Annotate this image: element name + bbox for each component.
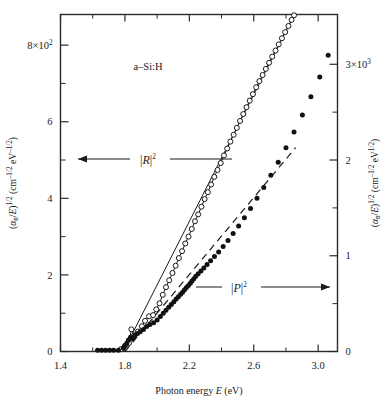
data-point <box>231 231 236 236</box>
x-tick-label-2: 2.2 <box>183 360 196 371</box>
data-point <box>257 79 262 84</box>
x-axis-tick-labels: 1.41.82.22.63.0 <box>54 360 325 371</box>
data-point <box>261 185 266 190</box>
data-point <box>218 161 223 166</box>
data-point <box>216 249 221 254</box>
arrow-left-icon <box>78 156 87 163</box>
data-point <box>279 36 284 41</box>
plot-frame <box>61 15 338 352</box>
data-point <box>111 348 116 353</box>
data-point <box>209 182 214 187</box>
data-point <box>248 206 253 211</box>
data-point <box>196 212 201 217</box>
data-point <box>263 66 268 71</box>
data-point <box>167 278 172 283</box>
data-point <box>212 174 217 179</box>
arrow-right-icon <box>321 284 330 291</box>
data-point <box>276 42 281 47</box>
data-point <box>254 85 259 90</box>
data-point <box>267 60 272 65</box>
data-point <box>242 215 247 220</box>
x-tick-label-1: 1.8 <box>118 360 131 371</box>
svg-text:(αn/E)1/2 (cm–1/2 eV–1/2): (αn/E)1/2 (cm–1/2 eV–1/2) <box>6 137 20 229</box>
data-point <box>225 238 230 243</box>
data-point <box>326 53 331 58</box>
y-right-tick-label-1: 1 <box>346 250 351 261</box>
data-point <box>180 249 185 254</box>
data-point <box>163 285 168 290</box>
y-left-tick-label-2: 4 <box>47 193 53 204</box>
data-point <box>170 270 175 275</box>
annotation-p-label: |P|2 <box>231 281 247 295</box>
data-point <box>215 167 220 172</box>
data-point <box>186 234 191 239</box>
sample-label: a–Si:H <box>133 61 163 72</box>
data-point <box>268 173 273 178</box>
data-point <box>247 98 252 103</box>
x-axis-minor-ticks <box>93 15 286 352</box>
annotation-r-squared: |R|2 <box>78 153 232 167</box>
y-axis-right-tick-labels: 0123×103 <box>346 58 372 357</box>
annotation-r-label: |R|2 <box>140 153 156 167</box>
data-point <box>192 219 197 224</box>
data-point <box>260 73 265 78</box>
data-point <box>276 160 281 165</box>
data-point <box>221 244 226 249</box>
data-point <box>250 92 255 97</box>
data-point <box>234 125 239 130</box>
data-point <box>270 54 275 59</box>
data-point <box>173 263 178 268</box>
y-left-tick-label-0: 0 <box>47 346 52 357</box>
data-point <box>221 153 226 158</box>
x-tick-label-3: 2.6 <box>247 360 260 371</box>
y-left-tick-label-1: 2 <box>47 270 52 281</box>
y-axis-left-major-ticks <box>61 45 69 351</box>
data-point <box>129 327 134 332</box>
y-right-tick-label-2: 2 <box>346 155 351 166</box>
data-point <box>231 132 236 137</box>
y-right-tick-label-0: 0 <box>346 346 351 357</box>
y-left-tick-label-4: 8×102 <box>27 39 53 51</box>
x-axis-title: Photon energy E (eV) <box>155 385 242 397</box>
y-axis-right-minor-ticks <box>333 112 338 303</box>
data-point <box>212 254 217 259</box>
x-axis-major-ticks <box>61 15 319 352</box>
data-point <box>202 197 207 202</box>
data-point <box>292 13 297 18</box>
data-point <box>286 23 291 28</box>
data-point <box>308 94 313 99</box>
figure-container: 1.41.82.22.63.0 02468×102 0123×103 a–Si:… <box>0 0 384 407</box>
data-point <box>292 130 297 135</box>
data-point <box>116 348 121 353</box>
chart-svg: 1.41.82.22.63.0 02468×102 0123×103 a–Si:… <box>0 0 384 407</box>
data-point <box>176 256 181 261</box>
data-point <box>283 30 288 35</box>
y-axis-left-title: (αn/E)1/2 (cm–1/2 eV–1/2) <box>6 137 20 229</box>
data-point <box>238 118 243 123</box>
data-point <box>300 113 305 118</box>
data-point <box>143 318 148 323</box>
data-point <box>317 74 322 79</box>
svg-text:(αn/E)1/2 (cm–1/2 eV1/2): (αn/E)1/2 (cm–1/2 eV1/2) <box>368 139 382 227</box>
data-point <box>228 139 233 144</box>
data-point <box>254 196 259 201</box>
data-point <box>244 105 249 110</box>
data-point <box>273 48 278 53</box>
data-point <box>183 241 188 246</box>
x-tick-label-0: 1.4 <box>54 360 68 371</box>
data-point <box>157 301 162 306</box>
data-point <box>236 224 241 229</box>
y-axis-left-tick-labels: 02468×102 <box>27 39 53 357</box>
data-point <box>241 112 246 117</box>
data-point <box>151 313 156 318</box>
y-axis-right-title: (αn/E)1/2 (cm–1/2 eV1/2) <box>368 139 382 227</box>
y-right-tick-label-3: 3×103 <box>346 58 372 70</box>
data-point <box>199 204 204 209</box>
data-point <box>208 258 213 263</box>
data-point <box>205 190 210 195</box>
data-point <box>283 145 288 150</box>
data-point <box>160 292 165 297</box>
data-point <box>154 307 159 312</box>
y-left-tick-label-3: 6 <box>47 116 52 127</box>
x-tick-label-4: 3.0 <box>312 360 325 371</box>
